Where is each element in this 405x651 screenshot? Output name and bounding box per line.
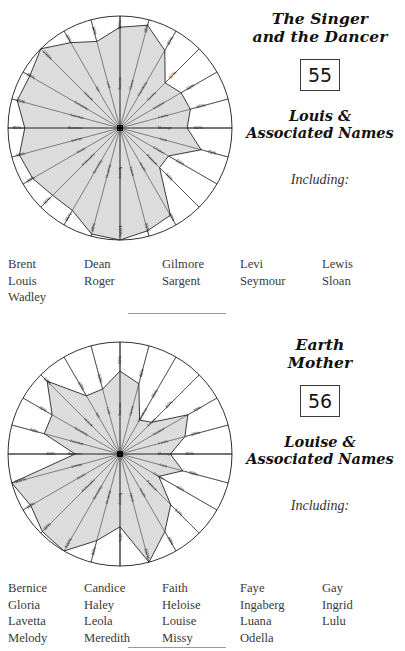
list-item: Levi bbox=[240, 256, 322, 273]
name-column: Bernice Gloria Lavetta Melody bbox=[8, 580, 84, 646]
list-item: Meredith bbox=[84, 630, 162, 647]
list-item: Roger bbox=[84, 273, 162, 290]
list-item: Sargent bbox=[162, 273, 240, 290]
name-column: Gay Ingrid Lulu bbox=[322, 580, 392, 646]
name-column: Faye Ingaberg Luana Odella bbox=[240, 580, 322, 646]
list-item: Ingrid bbox=[322, 597, 392, 614]
list-item: Seymour bbox=[240, 273, 322, 290]
list-item: Haley bbox=[84, 597, 162, 614]
radar-value-label: 65% bbox=[118, 533, 123, 542]
entry-subtitle-line1: Louise & bbox=[236, 433, 404, 450]
radar-value-label: 85% bbox=[13, 125, 22, 130]
list-item: Dean bbox=[84, 256, 162, 273]
including-label: Including: bbox=[236, 498, 404, 514]
radar-chart-55: SuccessCareerFriendshipSocietyVocationFa… bbox=[6, 8, 234, 248]
list-item: Gay bbox=[322, 580, 392, 597]
name-list-55: Brent Louis Wadley Dean Roger Gilmore Sa… bbox=[8, 256, 400, 306]
list-item: Odella bbox=[240, 630, 322, 647]
name-list-56: Bernice Gloria Lavetta Melody Candice Ha… bbox=[8, 580, 400, 646]
name-column: Faith Heloise Louise Missy bbox=[162, 580, 240, 646]
entry-heading-block: Earth Mother 56 Louise & Associated Name… bbox=[236, 336, 404, 467]
radar-value-label: 74% bbox=[117, 356, 122, 365]
list-item: Leola bbox=[84, 613, 162, 630]
section-divider bbox=[128, 647, 226, 648]
entry-subtitle-line2: Associated Names bbox=[236, 450, 404, 467]
list-item: Ingaberg bbox=[240, 597, 322, 614]
list-item: Bernice bbox=[8, 580, 84, 597]
name-column: Lewis Sloan bbox=[322, 256, 392, 306]
entry-subtitle: Louise & Associated Names bbox=[236, 433, 404, 468]
list-item: Heloise bbox=[162, 597, 240, 614]
list-item: Candice bbox=[84, 580, 162, 597]
including-label: Including: bbox=[236, 172, 404, 188]
name-column: Dean Roger bbox=[84, 256, 162, 306]
entry-title: Earth Mother bbox=[236, 336, 404, 373]
name-column: Brent Louis Wadley bbox=[8, 256, 84, 306]
entry-number-badge: 56 bbox=[300, 385, 340, 417]
list-item: Lavetta bbox=[8, 613, 84, 630]
list-item: Faith bbox=[162, 580, 240, 597]
entry-subtitle-line2: Associated Names bbox=[236, 124, 404, 141]
list-item: Gilmore bbox=[162, 256, 240, 273]
list-item: Lulu bbox=[322, 613, 392, 630]
list-item: Louise bbox=[162, 613, 240, 630]
list-item: Missy bbox=[162, 630, 240, 647]
radar-value-label: 40% bbox=[46, 451, 55, 456]
page: SuccessCareerFriendshipSocietyVocationFa… bbox=[0, 0, 405, 651]
radar-value-label: 45% bbox=[185, 451, 194, 456]
name-column: Candice Haley Leola Meredith bbox=[84, 580, 162, 646]
entry-subtitle: Louis & Associated Names bbox=[236, 107, 404, 142]
section-divider bbox=[128, 313, 226, 314]
radar-value-label: 100% bbox=[118, 226, 123, 237]
name-column: Gilmore Sargent bbox=[162, 256, 240, 306]
name-column: Levi Seymour bbox=[240, 256, 322, 306]
radar-chart-svg: SuccessCareerFriendshipSocietyVocationFa… bbox=[6, 334, 234, 574]
radar-chart-svg: SuccessCareerFriendshipSocietyVocationFa… bbox=[6, 8, 234, 248]
entry-title-line1: The Singer bbox=[236, 10, 404, 28]
radar-chart-56: SuccessCareerFriendshipSocietyVocationFa… bbox=[6, 334, 234, 574]
entry-title-line1: Earth bbox=[236, 336, 404, 354]
list-item: Brent bbox=[8, 256, 84, 273]
list-item: Gloria bbox=[8, 597, 84, 614]
entry-number-badge: 55 bbox=[300, 59, 340, 91]
entry-subtitle-line1: Louis & bbox=[236, 107, 404, 124]
entry-title: The Singer and the Dancer bbox=[236, 10, 404, 47]
list-item: Melody bbox=[8, 630, 84, 647]
list-item: Luana bbox=[240, 613, 322, 630]
list-item: Sloan bbox=[322, 273, 392, 290]
list-item: Lewis bbox=[322, 256, 392, 273]
list-item: Wadley bbox=[8, 289, 84, 306]
entry-title-line2: and the Dancer bbox=[236, 28, 404, 46]
list-item: Faye bbox=[240, 580, 322, 597]
entry-heading-block: The Singer and the Dancer 55 Louis & Ass… bbox=[236, 10, 404, 141]
list-item: Louis bbox=[8, 273, 84, 290]
radar-value-label: 60% bbox=[194, 125, 203, 130]
radar-value-label: 90% bbox=[117, 21, 122, 30]
entry-title-line2: Mother bbox=[236, 354, 404, 372]
